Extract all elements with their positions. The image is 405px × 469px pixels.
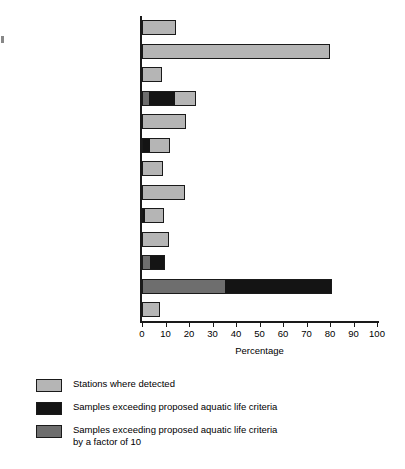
legend-swatch-detected bbox=[36, 379, 62, 392]
bar bbox=[142, 232, 169, 247]
bar bbox=[142, 185, 185, 200]
x-tick bbox=[213, 322, 214, 327]
chart-row: Chloroform bbox=[142, 40, 377, 64]
bar bbox=[142, 279, 332, 294]
bar-segment-detected bbox=[145, 209, 163, 222]
legend-item: Stations where detected bbox=[36, 378, 396, 392]
bar-segment-exceeding bbox=[150, 256, 164, 269]
legend-label: Samples exceeding proposed aquatic life … bbox=[73, 424, 277, 447]
chart-row: 1,1-Dichloroethene bbox=[142, 157, 377, 181]
chart-row: 1,1,2,2-Tetrachloroethane bbox=[142, 134, 377, 158]
bar bbox=[142, 44, 330, 59]
bar bbox=[142, 138, 170, 153]
plot-area: DichlorobromomethaneChloroformTrichlorof… bbox=[142, 16, 377, 322]
legend-item: Samples exceeding proposed aquatic life … bbox=[36, 401, 396, 415]
horizontal-bar-chart: DichlorobromomethaneChloroformTrichlorof… bbox=[0, 0, 405, 370]
chart-row: 1,2-Dichlorobenzene bbox=[142, 204, 377, 228]
legend-item: Samples exceeding proposed aquatic life … bbox=[36, 424, 396, 447]
bar bbox=[142, 161, 163, 176]
legend-swatch-factor10 bbox=[36, 425, 62, 438]
bar bbox=[142, 67, 162, 82]
x-tick bbox=[307, 322, 308, 327]
bar-segment-detected bbox=[143, 162, 162, 175]
chart-row: Phthalate esters bbox=[142, 275, 377, 299]
x-axis-title: Percentage bbox=[142, 345, 377, 356]
bar bbox=[142, 114, 186, 129]
chart-row: Benzene bbox=[142, 181, 377, 205]
x-tick bbox=[260, 322, 261, 327]
x-tick bbox=[354, 322, 355, 327]
bar bbox=[142, 91, 196, 106]
chart-row: Toluene bbox=[142, 228, 377, 252]
bar bbox=[142, 302, 160, 317]
x-tick bbox=[330, 322, 331, 327]
x-tick bbox=[189, 322, 190, 327]
bar-segment-exceeding bbox=[225, 280, 331, 293]
legend-swatch-exceeding bbox=[36, 402, 62, 415]
bar-segment-detected bbox=[150, 139, 169, 152]
chart-row: Dichlorobromomethane bbox=[142, 16, 377, 40]
x-tick bbox=[377, 322, 378, 327]
bar-segment-factor10 bbox=[143, 256, 150, 269]
bar-segment-detected bbox=[143, 303, 159, 316]
chart-row: 1,1,1-Trichloroethane bbox=[142, 110, 377, 134]
bar-segment-factor10 bbox=[143, 280, 225, 293]
x-tick bbox=[283, 322, 284, 327]
bar-segment-detected bbox=[143, 233, 168, 246]
bar-segment-detected bbox=[143, 45, 329, 58]
x-tick-label: 100 bbox=[362, 328, 392, 339]
chart-row: Trichlorofluoromethane bbox=[142, 63, 377, 87]
bar bbox=[142, 208, 164, 223]
x-tick bbox=[142, 322, 143, 327]
bar-segment-detected bbox=[143, 186, 184, 199]
bar-segment-exceeding bbox=[149, 92, 175, 105]
x-tick bbox=[166, 322, 167, 327]
bar bbox=[142, 255, 165, 270]
x-tick bbox=[236, 322, 237, 327]
bar-segment-detected bbox=[175, 92, 195, 105]
legend-label: Samples exceeding proposed aquatic life … bbox=[73, 401, 277, 413]
legend-label: Stations where detected bbox=[73, 378, 175, 390]
bar-segment-detected bbox=[143, 115, 185, 128]
chart-row: 1,2-Dichloroethene bbox=[142, 87, 377, 111]
bar-segment-detected bbox=[143, 21, 175, 34]
bar bbox=[142, 20, 176, 35]
chart-row: Naphthalene bbox=[142, 298, 377, 322]
chart-row: Pentachlorophenol bbox=[142, 251, 377, 275]
bar-segment-exceeding bbox=[143, 139, 150, 152]
bar-segment-detected bbox=[143, 68, 161, 81]
chart-legend: Stations where detectedSamples exceeding… bbox=[36, 378, 396, 456]
